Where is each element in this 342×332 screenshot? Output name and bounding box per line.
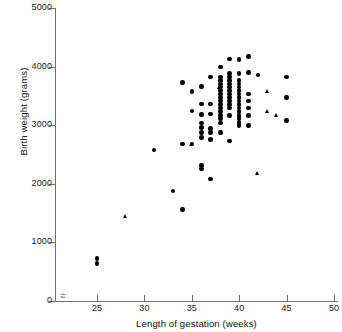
data-point-circle: [208, 137, 213, 142]
data-point-circle: [246, 54, 251, 59]
data-point-circle: [180, 80, 185, 85]
data-point-circle: [227, 113, 232, 118]
data-point-circle: [180, 207, 185, 212]
data-point-triangle: [189, 142, 193, 146]
data-point-circle: [284, 118, 289, 123]
data-point-circle: [218, 75, 223, 80]
data-point-circle: [284, 75, 289, 80]
data-point-circle: [246, 123, 251, 128]
data-point-circle: [95, 256, 100, 261]
data-point-circle: [227, 57, 232, 62]
data-point-circle: [246, 113, 251, 118]
data-point-circle: [218, 121, 223, 126]
data-point-circle: [218, 109, 223, 114]
data-point-circle: [180, 142, 185, 147]
data-point-triangle: [123, 214, 127, 218]
data-point-circle: [208, 102, 213, 107]
plot-area: [0, 0, 342, 332]
data-point-circle: [152, 148, 157, 153]
data-point-triangle: [274, 113, 278, 117]
data-point-triangle: [265, 89, 269, 93]
data-point-circle: [246, 99, 251, 104]
data-point-circle: [246, 92, 251, 97]
data-point-circle: [171, 189, 176, 194]
data-point-circle: [208, 126, 213, 131]
data-point-circle: [218, 65, 223, 70]
data-point-circle: [284, 95, 289, 100]
data-point-circle: [199, 121, 204, 126]
data-point-circle: [237, 71, 242, 76]
x-axis-title: Length of gestation (weeks): [55, 318, 338, 329]
data-point-circle: [218, 130, 223, 135]
data-point-circle: [208, 177, 213, 182]
data-point-circle: [227, 95, 232, 100]
data-point-circle: [237, 57, 242, 62]
data-point-circle: [208, 112, 213, 117]
data-point-circle: [227, 78, 232, 83]
data-point-circle: [199, 84, 204, 89]
data-point-circle: [199, 163, 204, 168]
data-point-circle: [208, 75, 213, 80]
data-point-circle: [199, 130, 204, 135]
data-point-circle: [227, 71, 232, 76]
data-point-circle: [246, 106, 251, 111]
data-point-circle: [227, 139, 232, 144]
data-point-triangle: [265, 109, 269, 113]
data-point-circle: [199, 125, 204, 130]
data-point-circle: [199, 135, 204, 140]
data-point-circle: [218, 78, 223, 83]
data-point-circle: [190, 109, 195, 114]
data-point-circle: [218, 102, 223, 107]
data-point-circle: [199, 112, 204, 117]
data-point-triangle: [255, 171, 259, 175]
data-point-circle: [256, 73, 261, 78]
data-point-circle: [218, 95, 223, 100]
data-point-circle: [199, 102, 204, 107]
data-point-circle: [227, 102, 232, 107]
data-point-circle: [95, 261, 100, 266]
y-axis-title: Birth weight (grams): [18, 17, 29, 207]
scatter-plot-figure: ≈ 010002000300040005000 253035404550 Bir…: [0, 0, 342, 332]
data-point-circle: [246, 70, 251, 75]
data-point-circle: [190, 89, 195, 94]
data-point-triangle: [217, 85, 221, 89]
